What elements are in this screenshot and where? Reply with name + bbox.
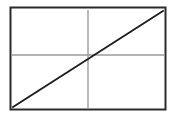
diagram-canvas [0,0,179,119]
line-diagram-svg [0,0,179,119]
